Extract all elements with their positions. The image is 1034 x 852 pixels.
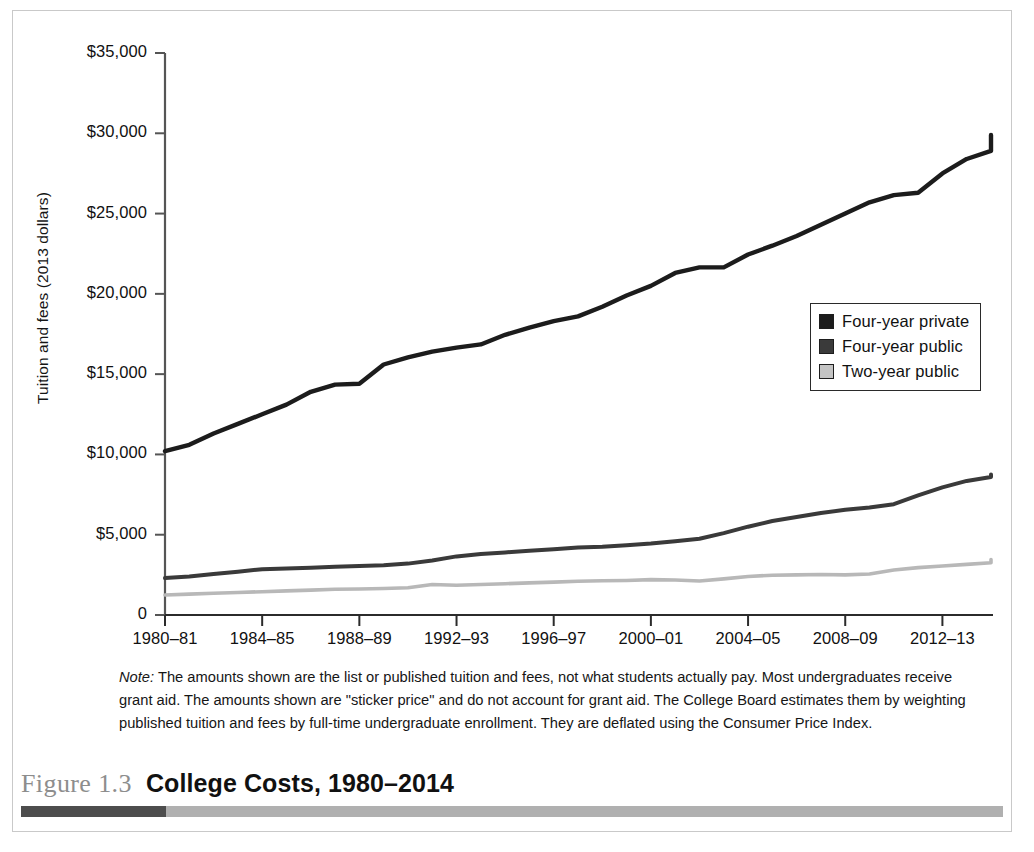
figure-number: Figure 1.3 bbox=[21, 769, 132, 799]
legend-item-four-year-public: Four-year public bbox=[819, 334, 969, 359]
legend-swatch-two-year-public bbox=[819, 364, 834, 379]
accent-bar-light-segment bbox=[166, 806, 1003, 817]
figure-note: Note: The amounts shown are the list or … bbox=[119, 666, 981, 735]
legend-label-four-year-public: Four-year public bbox=[842, 337, 963, 356]
note-text: The amounts shown are the list or publis… bbox=[119, 669, 966, 731]
figure-caption: Figure 1.3 College Costs, 1980–2014 bbox=[21, 769, 454, 799]
legend-item-two-year-public: Two-year public bbox=[819, 359, 969, 384]
chart-legend: Four-year private Four-year public Two-y… bbox=[810, 303, 981, 391]
legend-item-four-year-private: Four-year private bbox=[819, 309, 969, 334]
y-tick-label: $30,000 bbox=[57, 122, 147, 141]
accent-bar-dark-segment bbox=[21, 806, 166, 817]
y-tick-label: $35,000 bbox=[57, 42, 147, 61]
x-tick-label: 2012–13 bbox=[882, 629, 1002, 648]
figure-title: College Costs, 1980–2014 bbox=[146, 769, 454, 798]
note-label: Note: bbox=[119, 669, 154, 685]
y-tick-label: $5,000 bbox=[57, 524, 147, 543]
legend-label-two-year-public: Two-year public bbox=[842, 362, 959, 381]
legend-swatch-four-year-public bbox=[819, 339, 834, 354]
figure-card: Tuition and fees (2013 dollars) Four-yea… bbox=[12, 10, 1012, 832]
legend-swatch-four-year-private bbox=[819, 314, 834, 329]
y-tick-label: $10,000 bbox=[57, 443, 147, 462]
y-tick-label: $20,000 bbox=[57, 283, 147, 302]
y-tick-label: $15,000 bbox=[57, 363, 147, 382]
accent-bar bbox=[21, 806, 1003, 817]
y-tick-label: 0 bbox=[57, 604, 147, 623]
chart-plot-region: Tuition and fees (2013 dollars) Four-yea… bbox=[13, 11, 1011, 661]
y-tick-label: $25,000 bbox=[57, 203, 147, 222]
legend-label-four-year-private: Four-year private bbox=[842, 312, 969, 331]
